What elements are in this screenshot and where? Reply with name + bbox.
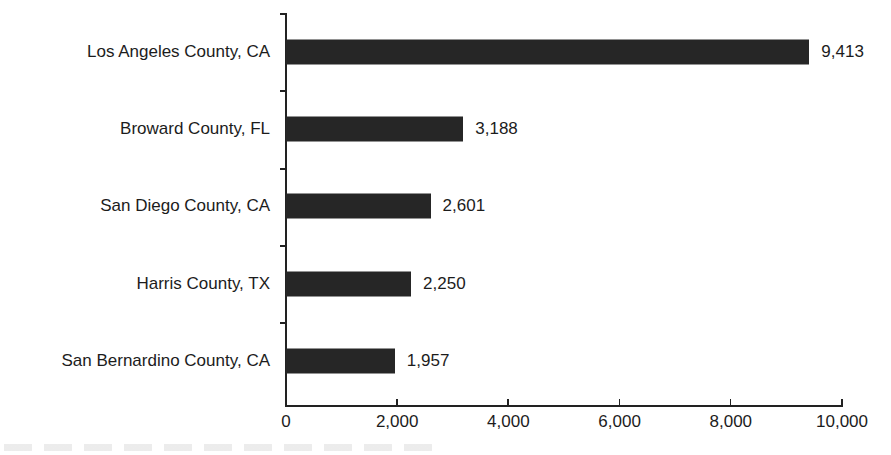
- category-label: San Diego County, CA: [100, 196, 270, 216]
- x-tick-label: 4,000: [487, 412, 530, 432]
- value-label: 1,957: [407, 351, 450, 371]
- x-tick-label: 6,000: [598, 412, 641, 432]
- category-label: Broward County, FL: [120, 119, 270, 139]
- bar: [286, 194, 431, 219]
- bar-chart: Los Angeles County, CA9,413Broward Count…: [0, 0, 891, 455]
- value-label: 9,413: [821, 42, 864, 62]
- x-tick-label: 0: [281, 412, 290, 432]
- x-axis-tick: [396, 399, 398, 406]
- y-axis-tick: [280, 90, 286, 92]
- value-label: 3,188: [475, 119, 518, 139]
- y-axis-tick: [280, 322, 286, 324]
- x-axis: [285, 405, 843, 407]
- x-tick-label: 8,000: [710, 412, 753, 432]
- category-label: San Bernardino County, CA: [61, 351, 270, 371]
- x-axis-tick: [507, 399, 509, 406]
- x-axis-tick: [841, 399, 843, 406]
- bar: [286, 272, 411, 297]
- y-axis-tick: [280, 245, 286, 247]
- category-label: Los Angeles County, CA: [87, 42, 270, 62]
- source-footnote: [4, 444, 444, 451]
- x-tick-label: 2,000: [376, 412, 419, 432]
- value-label: 2,601: [443, 196, 486, 216]
- x-axis-tick: [619, 399, 621, 406]
- bar: [286, 40, 809, 65]
- category-label: Harris County, TX: [136, 274, 270, 294]
- bar: [286, 117, 463, 142]
- y-axis-tick: [280, 13, 286, 15]
- y-axis-tick: [280, 168, 286, 170]
- bar: [286, 349, 395, 374]
- x-tick-label: 10,000: [816, 412, 868, 432]
- x-axis-tick: [730, 399, 732, 406]
- value-label: 2,250: [423, 274, 466, 294]
